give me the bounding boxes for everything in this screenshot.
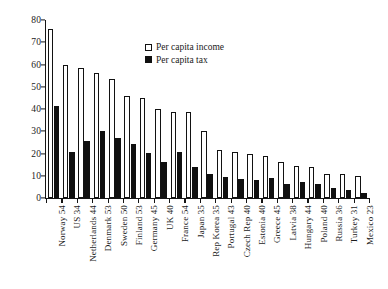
bar-per-capita-income xyxy=(140,98,145,198)
bar-per-capita-tax xyxy=(84,141,89,198)
x-axis-category-label: Norway 54 xyxy=(57,205,67,247)
y-tick-mark xyxy=(41,42,45,43)
bar-per-capita-income xyxy=(232,152,237,198)
bar-per-capita-income xyxy=(171,112,176,198)
chart-legend: Per capita incomePer capita tax xyxy=(145,41,224,66)
bar-per-capita-income xyxy=(155,109,160,198)
y-tick-mark xyxy=(41,175,45,176)
x-axis-category-label: Rep Korea 35 xyxy=(211,205,221,257)
bar-group xyxy=(292,20,307,198)
x-tick-mark xyxy=(338,199,339,203)
bar-per-capita-income xyxy=(340,174,345,198)
bar-per-capita-income xyxy=(109,79,114,198)
bar-per-capita-tax xyxy=(223,177,228,198)
open-square-icon xyxy=(145,44,152,51)
bar-per-capita-tax xyxy=(254,180,259,198)
x-tick-mark xyxy=(323,199,324,203)
legend-item: Per capita income xyxy=(145,41,224,54)
bar-group xyxy=(261,20,276,198)
bar-group xyxy=(46,20,61,198)
x-tick-mark xyxy=(46,199,47,203)
x-axis-category-label: Japan 35 xyxy=(196,205,206,238)
bar-group xyxy=(246,20,261,198)
x-axis-category-label: Latvia 38 xyxy=(288,205,298,241)
bar-per-capita-tax xyxy=(161,162,166,198)
bar-group xyxy=(277,20,292,198)
y-tick-mark xyxy=(41,131,45,132)
bar-per-capita-income xyxy=(309,167,314,198)
bar-per-capita-tax xyxy=(284,184,289,198)
x-axis-category-label: Estonia 40 xyxy=(257,205,267,245)
x-axis-category-label: UK 40 xyxy=(165,205,175,230)
x-axis-category-label: Greece 45 xyxy=(272,205,282,243)
x-tick-mark xyxy=(369,199,370,203)
x-axis-category-label: Hungary 44 xyxy=(303,205,313,249)
bar-per-capita-income xyxy=(94,73,99,198)
bar-per-capita-tax xyxy=(146,153,151,198)
y-tick-mark xyxy=(41,86,45,87)
x-tick-mark xyxy=(123,199,124,203)
y-tick-mark xyxy=(41,19,45,20)
bar-group xyxy=(108,20,123,198)
x-tick-mark xyxy=(200,199,201,203)
x-axis-category-label: Germany 45 xyxy=(149,205,159,251)
x-tick-mark xyxy=(354,199,355,203)
bar-per-capita-income xyxy=(294,166,299,198)
legend-item-label: Per capita income xyxy=(156,41,224,54)
x-axis-category-label: Russia 36 xyxy=(334,205,344,242)
y-tick-mark xyxy=(41,108,45,109)
x-tick-mark xyxy=(215,199,216,203)
bar-group xyxy=(338,20,353,198)
x-tick-mark xyxy=(277,199,278,203)
bar-per-capita-income xyxy=(324,174,329,198)
x-axis-category-label: Turkey 31 xyxy=(349,205,359,243)
bar-per-capita-tax xyxy=(177,152,182,198)
bar-per-capita-tax xyxy=(238,179,243,198)
y-tick-mark xyxy=(41,197,45,198)
bar-per-capita-tax xyxy=(315,184,320,198)
x-tick-mark xyxy=(307,199,308,203)
x-tick-mark xyxy=(246,199,247,203)
x-tick-mark xyxy=(77,199,78,203)
x-axis-category-label: Czech Rep 40 xyxy=(242,205,252,257)
bar-per-capita-income xyxy=(278,162,283,198)
x-axis-category-label: Denmark 53 xyxy=(103,205,113,251)
legend-item: Per capita tax xyxy=(145,54,224,67)
x-tick-mark xyxy=(138,199,139,203)
bar-per-capita-income xyxy=(186,112,191,198)
bar-per-capita-tax xyxy=(54,106,59,198)
x-tick-mark xyxy=(154,199,155,203)
bar-per-capita-income xyxy=(78,68,83,198)
x-axis-category-label: Portugal 43 xyxy=(226,205,236,248)
x-tick-mark xyxy=(231,199,232,203)
bar-per-capita-tax xyxy=(361,193,366,198)
bar-per-capita-income xyxy=(63,65,68,198)
bar-chart: 01020304050607080 Norway 54US 34Netherla… xyxy=(0,0,388,289)
x-tick-mark xyxy=(169,199,170,203)
bar-per-capita-income xyxy=(201,131,206,198)
bar-per-capita-tax xyxy=(346,190,351,198)
bar-per-capita-tax xyxy=(100,131,105,198)
x-tick-mark xyxy=(61,199,62,203)
x-tick-mark xyxy=(292,199,293,203)
bar-group xyxy=(323,20,338,198)
bar-per-capita-tax xyxy=(300,182,305,198)
x-axis-category-label: France 54 xyxy=(180,205,190,242)
x-axis-category-label: Poland 40 xyxy=(319,205,329,243)
bar-per-capita-tax xyxy=(192,167,197,198)
x-axis-category-label: US 34 xyxy=(72,205,82,229)
x-axis-line xyxy=(45,198,370,199)
bar-per-capita-tax xyxy=(269,178,274,198)
legend-item-label: Per capita tax xyxy=(156,54,208,67)
y-tick-mark xyxy=(41,153,45,154)
bar-group xyxy=(354,20,369,198)
x-tick-mark xyxy=(184,199,185,203)
bar-group xyxy=(123,20,138,198)
bar-per-capita-income xyxy=(48,29,53,198)
x-axis-category-label: Netherlands 44 xyxy=(88,205,98,262)
bar-per-capita-income xyxy=(355,176,360,198)
bar-per-capita-tax xyxy=(207,174,212,198)
x-axis-category-label: Sweden 50 xyxy=(119,205,129,246)
filled-square-icon xyxy=(145,56,152,63)
x-axis-category-label: Mexico 23 xyxy=(365,205,375,245)
